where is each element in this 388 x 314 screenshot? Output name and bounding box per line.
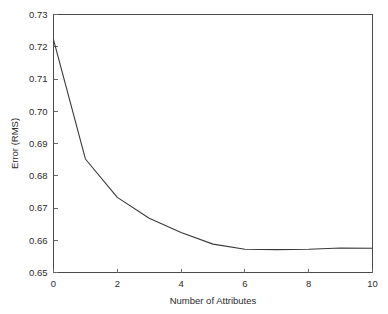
svg-text:8: 8	[306, 278, 311, 289]
svg-text:10: 10	[367, 278, 378, 289]
chart-figure: 0.650.660.670.680.690.700.710.720.73 024…	[0, 0, 388, 314]
svg-text:0.71: 0.71	[29, 73, 48, 84]
svg-text:0.65: 0.65	[29, 267, 48, 278]
svg-text:0.69: 0.69	[29, 138, 48, 149]
y-axis-title: Error (RMS)	[9, 118, 20, 169]
chart-background	[0, 0, 388, 314]
svg-text:6: 6	[242, 278, 247, 289]
svg-text:0.70: 0.70	[29, 106, 48, 117]
svg-text:2: 2	[115, 278, 120, 289]
svg-text:0.67: 0.67	[29, 202, 48, 213]
x-axis-title: Number of Attributes	[170, 295, 257, 306]
y-axis-tick-labels: 0.650.660.670.680.690.700.710.720.73	[29, 9, 48, 278]
svg-text:0.66: 0.66	[29, 235, 48, 246]
line-chart: 0.650.660.670.680.690.700.710.720.73 024…	[0, 0, 388, 314]
svg-text:0.73: 0.73	[29, 9, 48, 20]
svg-text:0.72: 0.72	[29, 41, 48, 52]
svg-text:0.68: 0.68	[29, 170, 48, 181]
svg-text:0: 0	[51, 278, 56, 289]
svg-text:4: 4	[178, 278, 183, 289]
